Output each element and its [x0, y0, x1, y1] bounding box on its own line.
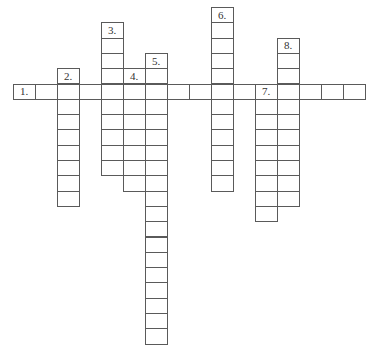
clue-start-cell[interactable]: 4. [123, 68, 146, 84]
clue-start-cell[interactable]: 8. [277, 38, 300, 54]
letter-cell[interactable] [211, 175, 234, 191]
letter-cell[interactable] [57, 129, 80, 145]
letter-cell[interactable] [255, 160, 278, 176]
letter-cell[interactable] [57, 84, 80, 100]
letter-cell[interactable] [255, 191, 278, 207]
letter-cell[interactable] [145, 313, 168, 329]
letter-cell[interactable] [255, 99, 278, 115]
letter-cell[interactable] [101, 53, 124, 69]
letter-cell[interactable] [211, 99, 234, 115]
clue-number: 5. [146, 54, 167, 68]
letter-cell[interactable] [277, 99, 300, 115]
letter-cell[interactable] [255, 145, 278, 161]
letter-cell[interactable] [277, 84, 300, 100]
clue-number: 7. [256, 85, 277, 99]
letter-cell[interactable] [277, 160, 300, 176]
letter-cell[interactable] [123, 84, 146, 100]
letter-cell[interactable] [101, 38, 124, 54]
letter-cell[interactable] [145, 252, 168, 268]
letter-cell[interactable] [145, 267, 168, 283]
letter-cell[interactable] [145, 282, 168, 298]
letter-cell[interactable] [255, 175, 278, 191]
letter-cell[interactable] [123, 114, 146, 130]
letter-cell[interactable] [123, 175, 146, 191]
letter-cell[interactable] [101, 129, 124, 145]
letter-cell[interactable] [145, 68, 168, 84]
letter-cell[interactable] [123, 145, 146, 161]
letter-cell[interactable] [277, 191, 300, 207]
letter-cell[interactable] [101, 99, 124, 115]
clue-start-cell[interactable]: 7. [255, 84, 278, 100]
letter-cell[interactable] [211, 53, 234, 69]
letter-cell[interactable] [145, 129, 168, 145]
clue-start-cell[interactable]: 5. [145, 53, 168, 69]
letter-cell[interactable] [145, 206, 168, 222]
letter-cell[interactable] [123, 160, 146, 176]
letter-cell[interactable] [189, 84, 212, 100]
letter-cell[interactable] [57, 114, 80, 130]
letter-cell[interactable] [277, 114, 300, 130]
letter-cell[interactable] [57, 175, 80, 191]
letter-cell[interactable] [57, 99, 80, 115]
letter-cell[interactable] [101, 84, 124, 100]
letter-cell[interactable] [321, 84, 344, 100]
letter-cell[interactable] [255, 206, 278, 222]
letter-cell[interactable] [343, 84, 366, 100]
letter-cell[interactable] [211, 145, 234, 161]
letter-cell[interactable] [211, 114, 234, 130]
letter-cell[interactable] [255, 129, 278, 145]
clue-start-cell[interactable]: 1. [13, 84, 36, 100]
letter-cell[interactable] [101, 160, 124, 176]
clue-start-cell[interactable]: 3. [101, 22, 124, 38]
letter-cell[interactable] [79, 84, 102, 100]
letter-cell[interactable] [211, 160, 234, 176]
letter-cell[interactable] [211, 38, 234, 54]
letter-cell[interactable] [145, 237, 168, 253]
letter-cell[interactable] [123, 129, 146, 145]
letter-cell[interactable] [145, 99, 168, 115]
clue-number: 6. [212, 8, 233, 22]
letter-cell[interactable] [145, 160, 168, 176]
letter-cell[interactable] [145, 328, 168, 344]
letter-cell[interactable] [145, 191, 168, 207]
clue-start-cell[interactable]: 6. [211, 7, 234, 23]
clue-number: 2. [58, 69, 79, 83]
letter-cell[interactable] [57, 145, 80, 161]
letter-cell[interactable] [101, 68, 124, 84]
letter-cell[interactable] [167, 84, 190, 100]
clue-number: 8. [278, 39, 299, 53]
letter-cell[interactable] [35, 84, 58, 100]
letter-cell[interactable] [145, 114, 168, 130]
letter-cell[interactable] [277, 129, 300, 145]
letter-cell[interactable] [299, 84, 322, 100]
letter-cell[interactable] [255, 114, 278, 130]
clue-number: 4. [124, 69, 145, 83]
clue-number: 3. [102, 23, 123, 37]
letter-cell[interactable] [211, 68, 234, 84]
letter-cell[interactable] [101, 145, 124, 161]
letter-cell[interactable] [277, 175, 300, 191]
letter-cell[interactable] [123, 99, 146, 115]
letter-cell[interactable] [145, 175, 168, 191]
crossword-grid: 1.7.2.3.4.5.6.8. [0, 0, 373, 353]
letter-cell[interactable] [145, 221, 168, 237]
letter-cell[interactable] [57, 191, 80, 207]
letter-cell[interactable] [101, 114, 124, 130]
letter-cell[interactable] [145, 84, 168, 100]
letter-cell[interactable] [277, 145, 300, 161]
letter-cell[interactable] [211, 129, 234, 145]
clue-number: 1. [14, 85, 35, 99]
letter-cell[interactable] [211, 84, 234, 100]
clue-start-cell[interactable]: 2. [57, 68, 80, 84]
letter-cell[interactable] [145, 298, 168, 314]
letter-cell[interactable] [145, 145, 168, 161]
letter-cell[interactable] [277, 53, 300, 69]
letter-cell[interactable] [57, 160, 80, 176]
letter-cell[interactable] [233, 84, 256, 100]
letter-cell[interactable] [211, 22, 234, 38]
letter-cell[interactable] [277, 68, 300, 84]
